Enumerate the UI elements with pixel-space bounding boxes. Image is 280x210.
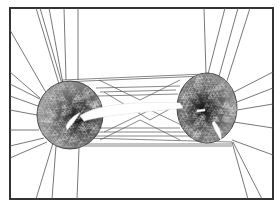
mesh-edge: [10, 138, 44, 146]
mesh-edge: [10, 96, 38, 106]
mesh-edge: [10, 72, 40, 98]
mesh-edge: [99, 80, 140, 100]
mesh-edge: [237, 88, 273, 102]
mesh-edge: [237, 104, 273, 110]
mesh-edge: [226, 8, 250, 84]
mesh-figure: [0, 0, 280, 210]
mesh-edge: [52, 146, 56, 199]
mesh-edge: [77, 148, 79, 199]
right-cluster: [176, 73, 237, 143]
mesh-edge: [204, 8, 206, 74]
mesh-edge: [100, 90, 176, 92]
mesh-edge: [218, 8, 238, 80]
mesh-edge: [10, 30, 48, 96]
mesh-edge: [100, 120, 140, 140]
mesh-edge: [10, 110, 37, 115]
mesh-edge: [234, 122, 273, 128]
mesh-edge: [36, 8, 59, 84]
mesh-edge: [233, 142, 262, 199]
mesh-edge: [232, 142, 248, 199]
mesh-edge: [64, 8, 66, 80]
mesh-diagram: [0, 0, 280, 210]
mesh-edge: [36, 143, 53, 199]
mesh-edge: [234, 72, 273, 92]
mesh-edge: [140, 120, 180, 140]
